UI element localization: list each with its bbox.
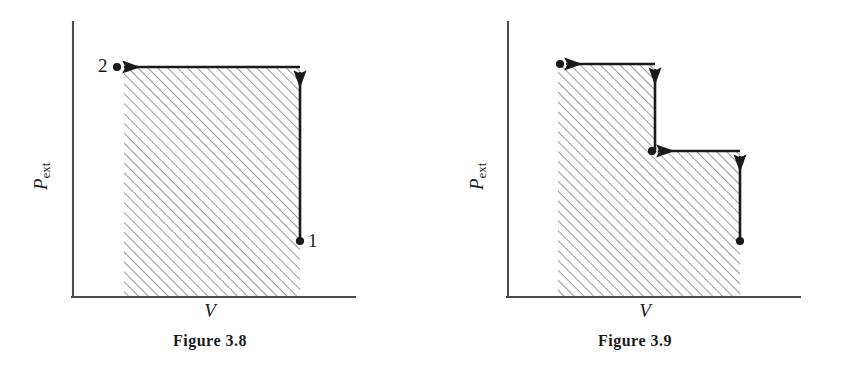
figure-page: Pext V 2 1 Figure 3.8 Pext V Figure 3.9 — [0, 0, 855, 373]
figure-3-8-graphic — [72, 22, 355, 297]
figure-3-9-graphic — [507, 22, 800, 297]
state-point-start-right — [736, 237, 744, 245]
y-axis-label-left: Pext — [30, 163, 54, 190]
point-label-1: 1 — [308, 230, 318, 252]
y-axis-label-left-base: P — [30, 178, 51, 190]
figure-caption-right: Figure 3.9 — [555, 332, 715, 350]
state-point-1 — [296, 237, 304, 245]
state-point-2 — [113, 63, 121, 71]
x-axis-label-right: V — [605, 300, 685, 322]
x-axis-label-left: V — [170, 300, 250, 322]
point-label-2: 2 — [98, 55, 108, 77]
shaded-area-right — [558, 64, 740, 297]
y-axis-label-left-sub: ext — [38, 163, 53, 179]
y-axis-label-right-base: P — [466, 178, 487, 190]
state-point-middle-right — [648, 147, 656, 155]
state-point-end-right — [556, 60, 564, 68]
shaded-area-left — [124, 67, 300, 297]
y-axis-label-right: Pext — [466, 163, 490, 190]
thermodynamics-indicator-diagrams — [0, 0, 855, 373]
figure-caption-left: Figure 3.8 — [130, 332, 290, 350]
y-axis-label-right-sub: ext — [474, 163, 489, 179]
